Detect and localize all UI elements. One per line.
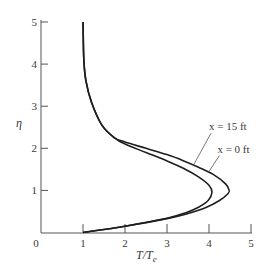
- x-tick-label: 3: [164, 237, 170, 249]
- y-axis-ticks: 12345: [32, 16, 49, 196]
- y-tick-label: 5: [32, 16, 38, 28]
- annotation-leader-line: [209, 156, 219, 172]
- x-tick-label: 4: [206, 237, 212, 249]
- series-lines: [83, 22, 229, 233]
- x-tick-label: 0: [33, 237, 39, 249]
- x-tick-label: 5: [248, 237, 254, 249]
- annotation-leader-line: [193, 133, 211, 165]
- annotation-x-15ft: x = 15 ft: [209, 120, 247, 132]
- x-axis-label-main: T/T: [136, 248, 154, 262]
- series-x-15ft-line: [83, 22, 212, 233]
- y-axis-label: η: [16, 116, 22, 130]
- x-tick-label: 2: [122, 237, 128, 249]
- y-tick-label: 4: [32, 58, 38, 70]
- x-axis-label: T/Te: [136, 248, 157, 264]
- x-axis-ticks: 012345: [33, 224, 254, 249]
- y-tick-label: 1: [32, 184, 38, 196]
- x-tick-label: 1: [80, 237, 86, 249]
- y-tick-label: 3: [32, 100, 38, 112]
- temperature-profile-chart: 012345 12345 x = 15 ftx = 0 ft T/Te η: [0, 0, 266, 274]
- y-tick-label: 2: [32, 142, 38, 154]
- annotations: x = 15 ftx = 0 ft: [193, 120, 249, 171]
- annotation-x-0ft: x = 0 ft: [217, 143, 249, 155]
- x-axis-label-sub: e: [153, 254, 157, 264]
